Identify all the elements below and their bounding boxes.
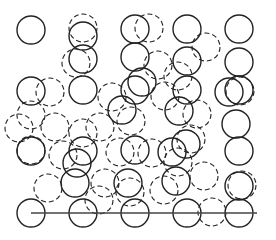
solid-circle bbox=[215, 78, 243, 106]
dashed-circle bbox=[106, 138, 134, 166]
solid-circle bbox=[222, 110, 250, 138]
solid-circle bbox=[173, 15, 201, 43]
solid-circle bbox=[225, 48, 253, 76]
dashed-circle bbox=[91, 169, 119, 197]
solid-circle bbox=[225, 76, 253, 104]
dashed-circle bbox=[198, 198, 226, 226]
dashed-circle bbox=[164, 148, 192, 176]
dashed-circle bbox=[190, 162, 218, 190]
solid-circles-layer bbox=[17, 15, 253, 227]
solid-circle bbox=[69, 76, 97, 104]
solid-circle bbox=[121, 136, 149, 164]
solid-circle bbox=[114, 169, 142, 197]
dashed-circle bbox=[228, 171, 256, 199]
circle-packing-diagram bbox=[0, 0, 276, 240]
dashed-circle bbox=[34, 174, 62, 202]
solid-circle bbox=[69, 22, 97, 50]
solid-circle bbox=[173, 47, 201, 75]
dashed-circle bbox=[69, 14, 97, 42]
dashed-circle bbox=[192, 33, 220, 61]
solid-circle bbox=[128, 68, 156, 96]
solid-circle bbox=[162, 167, 190, 195]
solid-circle bbox=[225, 172, 253, 200]
solid-circle bbox=[17, 137, 45, 165]
solid-circle bbox=[69, 45, 97, 73]
diagram-svg bbox=[0, 0, 276, 240]
dashed-circles-layer bbox=[5, 14, 256, 226]
solid-circle bbox=[108, 96, 136, 124]
solid-circle bbox=[121, 76, 149, 104]
solid-circle bbox=[225, 137, 253, 165]
dashed-circle bbox=[69, 119, 97, 147]
dashed-circle bbox=[116, 178, 144, 206]
dashed-circle bbox=[150, 176, 178, 204]
solid-circle bbox=[225, 15, 253, 43]
solid-circle bbox=[17, 16, 45, 44]
solid-circle bbox=[61, 169, 89, 197]
solid-circle bbox=[121, 43, 149, 71]
